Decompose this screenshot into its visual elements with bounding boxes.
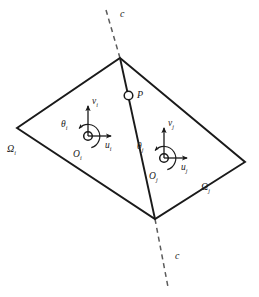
diagram-canvas: c c P Ωi Ωj vi ui θi — [0, 0, 259, 297]
u-axis-label-j: uj — [181, 162, 188, 174]
point-p-label: P — [136, 89, 143, 100]
domain-label-j: Ωj — [201, 181, 210, 194]
domain-label-i: Ωi — [7, 143, 16, 156]
point-p-marker — [124, 91, 133, 100]
v-axis-label-i: vi — [92, 96, 98, 108]
cut-label-bottom: c — [175, 250, 180, 261]
cut-label-top: c — [120, 8, 125, 19]
quadrilateral-outline — [17, 58, 245, 219]
v-axis-label-j: vj — [168, 118, 174, 130]
theta-label-i: θi — [61, 119, 68, 131]
u-axis-label-i: ui — [105, 140, 112, 152]
cut-line-bottom — [155, 219, 168, 287]
domain-j-symbol: Ω — [201, 181, 208, 192]
svg-text:Ωi: Ωi — [7, 143, 16, 156]
cut-line-top — [106, 10, 120, 58]
svg-text:Ωj: Ωj — [201, 181, 210, 194]
domain-i-symbol: Ω — [7, 143, 14, 154]
theta-label-j: θj — [137, 141, 144, 153]
origin-label-j: Oj — [149, 171, 158, 183]
domain-i-subscript: i — [14, 149, 16, 156]
figure-container: c c P Ωi Ωj vi ui θi — [0, 0, 259, 297]
origin-label-i: Oi — [73, 149, 82, 161]
domain-j-subscript: j — [207, 187, 210, 194]
